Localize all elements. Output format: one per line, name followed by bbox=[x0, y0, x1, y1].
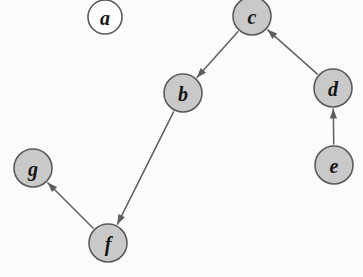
edge-line bbox=[117, 111, 174, 224]
graph-canvas: acbdegf bbox=[0, 0, 363, 277]
node-label: g bbox=[27, 158, 38, 181]
node-label: c bbox=[248, 6, 257, 28]
node-label: a bbox=[100, 7, 110, 29]
node-label: d bbox=[328, 78, 339, 100]
graph-node-d[interactable]: d bbox=[314, 69, 352, 107]
edge-line bbox=[267, 30, 317, 75]
graph-edge bbox=[267, 30, 317, 75]
graph-node-b[interactable]: b bbox=[164, 74, 202, 112]
graph-edge bbox=[197, 31, 239, 77]
graph-node-g[interactable]: g bbox=[14, 149, 52, 187]
graph-edge bbox=[47, 182, 93, 228]
graph-node-c[interactable]: c bbox=[233, 0, 271, 35]
arrowhead-icon bbox=[117, 214, 125, 225]
directed-graph-figure: acbdegf bbox=[0, 0, 363, 277]
graph-node-f[interactable]: f bbox=[89, 224, 127, 262]
graph-node-e[interactable]: e bbox=[315, 146, 353, 184]
nodes-layer: acbdegf bbox=[14, 0, 353, 262]
arrowhead-icon bbox=[330, 108, 337, 118]
node-label: e bbox=[330, 155, 339, 177]
node-label: b bbox=[178, 83, 188, 105]
graph-edge bbox=[117, 111, 174, 224]
graph-edge bbox=[330, 108, 337, 144]
graph-node-a[interactable]: a bbox=[88, 0, 122, 34]
edges-layer bbox=[47, 30, 337, 229]
